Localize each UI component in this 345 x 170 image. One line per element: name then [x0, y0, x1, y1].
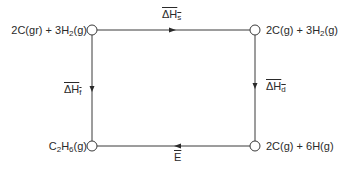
- node-bottom-right-label: 2C(g) + 6H(g): [266, 140, 334, 152]
- arrow-down-icon: [90, 86, 95, 92]
- node-top-right-label: 2C(g) + 3H2(g): [266, 24, 338, 36]
- node-bottom-right-circle: [250, 141, 260, 151]
- arrow-left-icon: [174, 144, 181, 149]
- node-top-right-circle: [250, 25, 260, 35]
- arrow-down-icon: [253, 83, 258, 89]
- node-top-left-circle: [87, 25, 97, 35]
- edge-left-label: ΔHf: [64, 83, 82, 95]
- node-bottom-left-label: C2H6(g): [49, 140, 87, 152]
- edge-right-label: ΔHd: [266, 80, 286, 92]
- node-bottom-left-circle: [87, 141, 97, 151]
- arrow-right-icon: [169, 28, 176, 33]
- node-top-left-label: 2C(gr) + 3H2(g): [11, 24, 87, 36]
- edge-bottom-label: E: [174, 151, 181, 163]
- edge-top-label: ΔHs: [162, 8, 181, 20]
